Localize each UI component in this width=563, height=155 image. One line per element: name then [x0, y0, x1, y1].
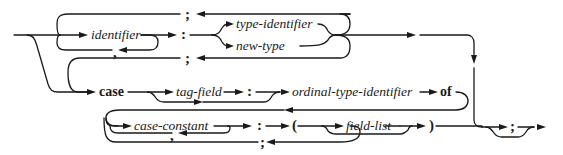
semicolon-bottom-label: ;: [260, 134, 265, 150]
field-list-label: field-list: [346, 118, 392, 133]
syntax-diagram: ; identifier , : type-identifier new-typ…: [0, 0, 563, 155]
comma1-label: ,: [113, 44, 117, 60]
case-keyword: case: [99, 84, 124, 99]
semicolon-mid-label: ;: [185, 50, 190, 66]
lparen-label: (: [292, 117, 297, 134]
new-type-label: new-type: [236, 38, 285, 53]
comma2-label: ,: [170, 127, 174, 143]
of-keyword: of: [440, 84, 452, 99]
entry-path: [14, 35, 88, 92]
type-identifier-label: type-identifier: [236, 16, 313, 31]
tag-field-label: tag-field: [176, 84, 222, 99]
syntax-diagram-svg: ; identifier , : type-identifier new-typ…: [0, 0, 563, 155]
colon1-label: :: [181, 26, 186, 42]
identifier-label: identifier: [91, 27, 141, 42]
semicolon-top-label: ;: [185, 6, 190, 22]
colon3-label: :: [257, 117, 262, 133]
ordinal-type-identifier-label: ordinal-type-identifier: [292, 84, 413, 99]
colon2-label: :: [247, 83, 252, 99]
rparen-label: ): [429, 117, 434, 134]
semicolon-end-label: ;: [510, 118, 515, 134]
